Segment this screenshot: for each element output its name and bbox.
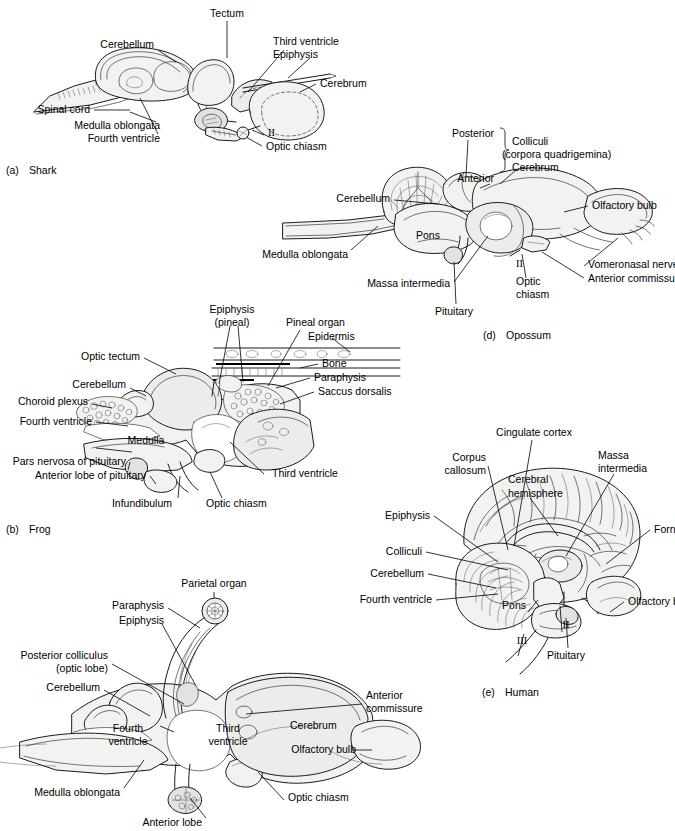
label-callosum: callosum: [445, 464, 487, 476]
caption-letter-a: (a): [6, 164, 19, 176]
label-pituitary: Pituitary: [435, 305, 474, 317]
label-olfactory-bulb: Olfactory bulb: [291, 743, 356, 755]
label-optic-nerve-ii: II: [516, 258, 523, 269]
label-epiphysis: Epiphysis: [210, 303, 255, 315]
label-cerebrum: Cerebrum: [320, 77, 367, 89]
label-third-ventricle: Third ventricle: [272, 467, 338, 479]
label-pars-nervosa-of-pituitary: Pars nervosa of pituitary: [13, 455, 127, 467]
label-posterior: Posterior: [452, 127, 495, 139]
label-anterior: Anterior: [457, 172, 494, 184]
label-olfactory-bulb: Olfactory bulb: [628, 595, 675, 607]
label-cerebrum: Cerebrum: [512, 161, 559, 173]
caption-name-frog: Frog: [29, 523, 51, 535]
panel-lizard: Parietal organ Paraphysis Epiphysis Post…: [0, 566, 450, 831]
label-optic-chiasm: Optic chiasm: [206, 497, 267, 509]
label-anterior-lobe: Anterior lobe: [142, 816, 202, 828]
label-oculomotor-nerve-iii: III: [517, 635, 528, 646]
label-vomeronasal-nerve: Vomeronasal nerve: [588, 258, 675, 270]
label-paraphysis: Paraphysis: [112, 599, 164, 611]
label-choroid-plexus: Choroid plexus: [18, 395, 88, 407]
caption-letter-d: (d): [483, 329, 496, 341]
label-chiasm: chiasm: [516, 288, 550, 300]
label-cerebellum: Cerebellum: [100, 38, 154, 50]
label-epidermis: Epidermis: [308, 330, 355, 342]
opossum-caption: (d) Opossum: [483, 329, 551, 341]
label-fornix: Fornix: [654, 523, 675, 535]
human-brain-drawing: [456, 468, 641, 674]
label-epiphysis: Epiphysis: [273, 48, 318, 60]
label-spinal-cord: Spinal cord: [37, 103, 90, 115]
label-optic-nerve-ii: II: [563, 619, 570, 630]
label-epiphysis-pineal: (pineal): [214, 316, 249, 328]
caption-letter-b: (b): [6, 523, 19, 535]
label-cerebellum: Cerebellum: [46, 681, 100, 693]
label-medulla-oblongata: Medulla oblongata: [74, 119, 160, 131]
label-third-ventricle: Third ventricle: [273, 35, 339, 47]
label-cerebellum: Cerebellum: [336, 192, 390, 204]
lizard-brain-drawing: [0, 598, 421, 814]
label-tectum: Tectum: [210, 7, 244, 19]
panel-frog: Epiphysis (pineal) Pineal organ Epidermi…: [0, 296, 400, 544]
label-anterior-commissure: Anterior commissure: [588, 272, 675, 284]
label-colliculi: Colliculi: [386, 545, 422, 557]
label-bone: Bone: [322, 357, 347, 369]
label-pineal-organ: Pineal organ: [286, 316, 345, 328]
caption-letter-e: (e): [482, 686, 495, 698]
label-anterior-lobe-of-pituitary: Anterior lobe of pituitary: [35, 469, 147, 481]
frog-caption: (b) Frog: [6, 523, 51, 535]
label-optic-nerve-ii: II: [268, 127, 275, 138]
label-pons: Pons: [416, 229, 440, 241]
label-fourth-ventricle: Fourth ventricle: [20, 415, 93, 427]
label-anterior: Anterior: [366, 689, 403, 701]
label-epiphysis: Epiphysis: [119, 614, 164, 626]
label-pituitary: Pituitary: [547, 649, 586, 661]
label-cerebral-hemisphere: hemisphere: [508, 487, 563, 499]
comparative-brain-figure: Tectum Cerebellum Third ventricle Epiphy…: [0, 0, 675, 831]
label-epiphysis: Epiphysis: [385, 509, 430, 521]
label-third-ventricle: ventricle: [208, 735, 247, 747]
label-saccus-dorsalis: Saccus dorsalis: [318, 385, 392, 397]
label-infundibulum: Infundibulum: [112, 497, 172, 509]
label-medulla: Medulla: [128, 434, 165, 446]
label-massa: Massa: [598, 449, 629, 461]
label-fourth: Fourth: [113, 722, 144, 734]
label-optic-tectum: Optic tectum: [81, 350, 140, 362]
label-optic-chiasm: Optic chiasm: [288, 791, 349, 803]
human-caption: (e) Human: [482, 686, 539, 698]
caption-name-shark: Shark: [29, 164, 57, 176]
label-colliculi: Colliculi: [512, 135, 548, 147]
caption-name-opossum: Opossum: [506, 329, 551, 341]
label-third: Third: [216, 722, 240, 734]
label-fourth-ventricle: Fourth ventricle: [88, 132, 161, 144]
shark-caption: (a) Shark: [6, 164, 57, 176]
label-posterior-colliculus: Posterior colliculus: [20, 649, 108, 661]
label-anterior-commissure: commissure: [366, 702, 423, 714]
label-medulla-oblongata: Medulla oblongata: [34, 786, 120, 798]
label-cerebral: Cerebral: [508, 473, 548, 485]
label-cerebrum: Cerebrum: [290, 719, 337, 731]
label-corpora-quadrigemina: (corpora quadrigemina): [502, 148, 611, 160]
label-parietal-organ: Parietal organ: [181, 577, 247, 589]
label-paraphysis: Paraphysis: [314, 371, 366, 383]
label-corpus: Corpus: [452, 451, 486, 463]
label-cerebellum: Cerebellum: [72, 378, 126, 390]
label-optic-lobe: (optic lobe): [56, 662, 108, 674]
label-intermedia: intermedia: [598, 462, 647, 474]
label-medulla-oblongata: Medulla oblongata: [262, 248, 348, 260]
label-fourth-ventricle: ventricle: [108, 735, 147, 747]
label-massa-intermedia: Massa intermedia: [367, 277, 450, 289]
label-olfactory-bulb: Olfactory bulb: [592, 199, 657, 211]
caption-name-human: Human: [505, 686, 539, 698]
label-cingulate-cortex: Cingulate cortex: [496, 426, 573, 438]
label-pons: Pons: [502, 599, 526, 611]
label-optic: Optic: [516, 275, 541, 287]
